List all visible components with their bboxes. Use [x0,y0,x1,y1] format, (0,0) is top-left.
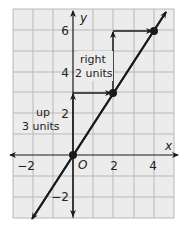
y-tick-2: 2 [61,107,69,121]
coordinate-graph: y x O −2 2 4 −2 2 4 6 right 2 units up 3… [0,0,186,227]
x-tick-2: 2 [110,159,118,173]
point-origin [69,151,77,159]
graph-svg: y x O −2 2 4 −2 2 4 6 right 2 units up 3… [0,0,186,227]
y-tick-6: 6 [61,24,69,38]
y-tick-4: 4 [61,66,69,80]
y-axis-label: y [79,11,88,25]
rise-label-line1: up [36,106,50,119]
x-tick-4: 4 [149,159,157,173]
origin-label: O [78,158,87,172]
run-label-line2: 2 units [75,67,113,80]
x-axis-label: x [164,139,173,153]
y-tick-neg2: −2 [51,190,69,204]
point-4-6 [150,27,158,35]
rise-label-line2: 3 units [22,120,60,133]
x-tick-neg2: −2 [17,159,35,173]
run-label-line1: right [80,53,107,66]
point-2-3 [109,89,117,97]
